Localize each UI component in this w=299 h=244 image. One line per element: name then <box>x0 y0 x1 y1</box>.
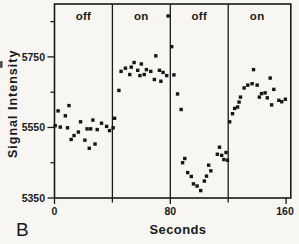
y-tick-label: 5350 <box>22 192 46 204</box>
data-point <box>176 92 179 95</box>
block-label-on-1: on <box>134 10 149 22</box>
data-point <box>228 120 231 123</box>
data-point <box>272 88 275 91</box>
data-point <box>136 69 139 72</box>
data-point <box>250 82 253 85</box>
x-tick-label: 80 <box>164 205 176 217</box>
data-point <box>236 105 239 108</box>
data-point <box>258 95 261 98</box>
data-point <box>143 73 146 76</box>
data-point <box>140 62 143 65</box>
data-point <box>252 68 255 71</box>
data-point <box>158 69 161 72</box>
data-point <box>145 68 148 71</box>
data-point <box>66 126 69 129</box>
data-point <box>263 91 266 94</box>
data-point <box>233 107 236 110</box>
data-point <box>56 109 59 112</box>
x-axis-title: Seconds <box>150 222 207 237</box>
signal-intensity-scatter-chart: 535055505750080160offonoffonSignal Inten… <box>0 0 299 244</box>
data-point <box>72 134 75 137</box>
data-point <box>222 158 225 161</box>
data-point <box>105 125 108 128</box>
data-point <box>260 92 263 95</box>
data-point <box>226 159 229 162</box>
y-tick-label: 5550 <box>22 121 46 133</box>
x-tick-label: 160 <box>276 205 294 217</box>
data-point <box>153 78 156 81</box>
data-point <box>165 74 168 77</box>
data-point <box>166 14 169 17</box>
data-point <box>88 147 91 150</box>
data-point <box>100 122 103 125</box>
data-point <box>111 126 114 129</box>
data-point <box>242 86 245 89</box>
data-point <box>231 112 234 115</box>
data-point <box>113 117 116 120</box>
data-point <box>159 80 162 83</box>
data-point <box>218 146 221 149</box>
data-point <box>239 95 242 98</box>
data-point <box>270 103 273 106</box>
data-point <box>91 118 94 121</box>
data-point <box>149 70 152 73</box>
data-point <box>199 189 202 192</box>
data-point <box>154 54 157 57</box>
x-tick-label: 0 <box>52 205 58 217</box>
y-tick-label: 5750 <box>22 51 46 63</box>
data-point <box>85 127 88 130</box>
data-point <box>205 174 208 177</box>
data-point <box>119 70 122 73</box>
data-point <box>183 157 186 160</box>
data-point <box>179 108 182 111</box>
data-point <box>220 154 223 157</box>
data-point <box>96 128 99 131</box>
data-point <box>117 89 120 92</box>
data-point <box>83 138 86 141</box>
data-point <box>255 83 258 86</box>
data-point <box>280 100 283 103</box>
data-point <box>237 100 240 103</box>
data-point <box>132 61 135 64</box>
data-point <box>93 142 96 145</box>
scatter-figure-panel-b: 535055505750080160offonoffonSignal Inten… <box>0 0 299 244</box>
data-point <box>89 127 92 130</box>
panel-label: B <box>16 219 29 240</box>
scan-artifact <box>0 61 3 68</box>
data-point <box>172 73 175 76</box>
data-point <box>77 130 80 133</box>
data-point <box>195 184 198 187</box>
data-point <box>207 163 210 166</box>
data-point <box>268 76 271 79</box>
data-point <box>192 182 195 185</box>
block-label-off-0: off <box>76 10 92 22</box>
data-point <box>124 66 127 69</box>
data-point <box>190 175 193 178</box>
data-point <box>64 114 67 117</box>
data-point <box>79 120 82 123</box>
data-point <box>54 124 57 127</box>
block-label-on-3: on <box>250 10 265 22</box>
data-point <box>108 129 111 132</box>
data-point <box>161 71 164 74</box>
data-point <box>128 73 131 76</box>
data-point <box>209 169 212 172</box>
data-point <box>181 161 184 164</box>
data-point <box>67 104 70 107</box>
data-point <box>69 138 72 141</box>
data-point <box>284 98 287 101</box>
data-point <box>277 99 280 102</box>
data-point <box>130 65 133 68</box>
data-point <box>59 125 62 128</box>
data-point <box>216 153 219 156</box>
data-point <box>203 179 206 182</box>
y-axis-title: Signal Intensity <box>6 50 20 158</box>
data-point <box>246 83 249 86</box>
data-point <box>170 45 173 48</box>
data-point <box>224 151 227 154</box>
data-point <box>186 171 189 174</box>
block-label-off-2: off <box>191 10 207 22</box>
data-point <box>266 96 269 99</box>
data-point <box>138 74 141 77</box>
